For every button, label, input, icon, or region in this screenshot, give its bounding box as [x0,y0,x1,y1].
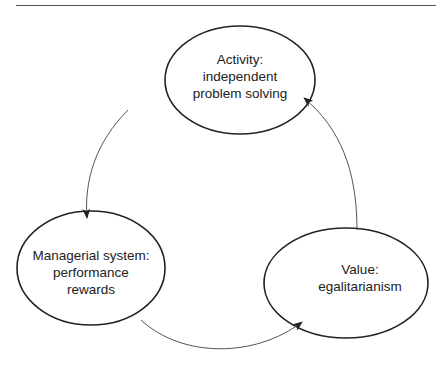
edge-activity-to-managerial [87,110,128,218]
node-activity-label: Activity: independent problem solving [165,51,315,102]
edge-managerial-to-value [141,320,302,349]
node-managerial-line-2: performance [17,264,165,281]
node-value-label: Value: egalitarianism [300,261,420,295]
node-managerial-line-1: Managerial system: [17,247,165,264]
node-managerial-label: Managerial system: performance rewards [17,247,165,298]
node-activity-line-2: independent [165,68,315,85]
node-activity-line-3: problem solving [165,85,315,102]
edge-value-to-activity [304,98,357,230]
node-managerial-line-3: rewards [17,281,165,298]
node-value-line-2: egalitarianism [300,278,420,295]
node-value-line-1: Value: [300,261,420,278]
node-activity-line-1: Activity: [165,51,315,68]
